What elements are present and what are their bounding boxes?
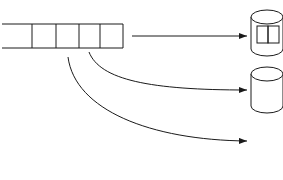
file-strip [2, 24, 123, 48]
striping-diagram [0, 0, 283, 180]
arrow-b1-to-disk-2 [89, 52, 247, 90]
arrow-c1-to-disk-3 [68, 57, 247, 141]
disk-2 [251, 67, 283, 113]
disk-1 [251, 10, 283, 56]
